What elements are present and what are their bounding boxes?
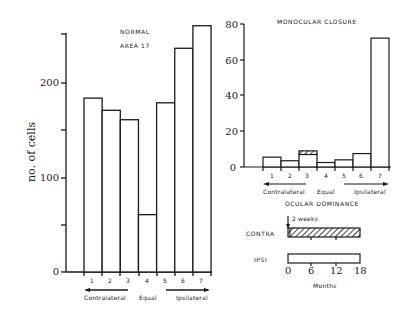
- timeline-xtick-6: 6: [308, 265, 314, 276]
- timeline-xtick-12: 12: [330, 265, 343, 276]
- left-bar-4: [138, 215, 156, 272]
- right-xtick-2: 2: [288, 172, 292, 179]
- right-xtick-5: 5: [342, 172, 346, 179]
- left-chart: [61, 26, 212, 292]
- figure-canvas: [0, 0, 406, 312]
- right-xtick-7: 7: [378, 172, 382, 179]
- left-chart-subtitle: AREA 17: [120, 42, 150, 49]
- left-bars: [84, 26, 211, 272]
- right-bars: [263, 38, 389, 167]
- left-xtick-7: 7: [199, 277, 203, 284]
- ytick-200: 200: [37, 77, 59, 88]
- right-chart: [240, 24, 391, 186]
- timeline-xlabel: Months: [313, 282, 337, 289]
- right-xtick-4: 4: [324, 172, 328, 179]
- left-xtick-1: 1: [90, 277, 94, 284]
- right-bar-7: [371, 38, 389, 167]
- right-group-ipsilateral: Ipsilateral: [354, 188, 386, 195]
- two-weeks-annotation: 2 weeks: [292, 215, 318, 222]
- left-xtick-2: 2: [108, 277, 112, 284]
- ocular-dominance-timeline: [286, 216, 360, 266]
- right-bar-5: [335, 160, 353, 167]
- right-ytick-0: 0: [222, 162, 236, 173]
- ytick-100: 100: [37, 172, 59, 183]
- ytick-0: 0: [49, 266, 59, 277]
- right-bar-6: [353, 154, 371, 167]
- right-bar-hatched-3: [299, 151, 317, 155]
- left-chart-title: NORMAL: [120, 28, 150, 35]
- right-group-equal: Equal: [317, 188, 335, 195]
- right-chart-title: MONOCULAR CLOSURE: [277, 18, 357, 25]
- left-xtick-4: 4: [145, 277, 149, 284]
- left-xtick-6: 6: [181, 277, 185, 284]
- left-xtick-3: 3: [126, 277, 130, 284]
- timeline-xtick-0: 0: [285, 265, 291, 276]
- left-bar-6: [175, 48, 193, 272]
- left-bar-1: [84, 98, 102, 272]
- right-ytick-20: 20: [222, 126, 238, 137]
- right-ytick-80: 80: [222, 19, 238, 30]
- ipsi-bar: [288, 254, 360, 263]
- left-bar-7: [193, 26, 211, 272]
- left-bar-3: [120, 120, 138, 272]
- right-xtick-1: 1: [270, 172, 274, 179]
- left-group-ipsilateral: Ipsilateral: [176, 294, 208, 301]
- right-ytick-60: 60: [222, 55, 238, 66]
- right-bar-2: [281, 161, 299, 167]
- left-bar-2: [102, 110, 120, 272]
- right-ytick-40: 40: [222, 90, 238, 101]
- right-bar-1: [263, 157, 281, 167]
- left-group-equal: Equal: [139, 294, 157, 301]
- right-group-contralateral: Contralateral: [263, 188, 305, 195]
- timeline-xtick-18: 18: [354, 265, 367, 276]
- row-label-contra: CONTRA: [246, 230, 275, 237]
- left-group-contralateral: Contralateral: [84, 294, 126, 301]
- right-bar-3: [299, 154, 317, 167]
- right-xtick-3: 3: [305, 172, 309, 179]
- left-bar-5: [157, 103, 175, 272]
- right-bar-4: [317, 163, 335, 167]
- left-xtick-5: 5: [163, 277, 167, 284]
- timeline-title: OCULAR DOMINANCE: [285, 200, 359, 207]
- contra-bar: [288, 228, 360, 237]
- right-xtick-6: 6: [359, 172, 363, 179]
- row-label-ipsi: IPSI: [254, 256, 267, 263]
